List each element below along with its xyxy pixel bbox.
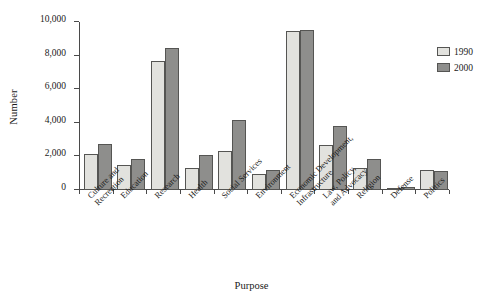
bar-group [84,22,112,190]
bar-group [286,22,314,190]
bar-group [218,22,246,190]
bar-group [117,22,145,190]
y-tick-label: 4,000 [22,115,66,125]
legend-label: 1990 [454,47,473,57]
bar-group [387,22,415,190]
y-tick-label: 0 [22,182,66,192]
y-tick-label: 8,000 [22,48,66,58]
bar-2000 [165,48,179,190]
chart-legend: 19902000 [437,45,499,77]
bar-group [151,22,179,190]
legend-swatch-icon [437,63,450,72]
y-tick-label: 6,000 [22,81,66,91]
x-axis-category-labels: Culture andRecreationEducationResearchHe… [79,194,499,274]
bar-1990 [151,61,165,190]
bar-groups [79,22,449,190]
legend-item[interactable]: 2000 [437,61,499,74]
y-tick-label: 2,000 [22,148,66,158]
bar-group [185,22,213,190]
y-axis-title: Number [8,72,19,142]
x-axis-title: Purpose [0,280,503,291]
legend-label: 2000 [454,63,473,73]
bar-chart: Number 02,0004,0006,0008,00010,000 Cultu… [0,0,503,302]
y-tick-label: 10,000 [22,14,66,24]
legend-swatch-icon [437,47,450,56]
legend-item[interactable]: 1990 [437,45,499,58]
plot-area: 02,0004,0006,0008,00010,000 [79,22,449,190]
bar-2000 [300,30,314,190]
